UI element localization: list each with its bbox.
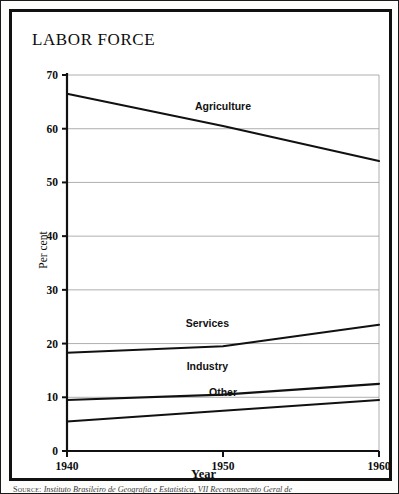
series-label-agriculture: Agriculture: [195, 100, 251, 112]
y-tick-label: 70: [47, 69, 59, 81]
y-tick-label: 10: [47, 391, 59, 403]
series-line-other: [67, 400, 379, 421]
y-tick-label: 50: [47, 176, 59, 188]
source-kicker: Source:: [13, 485, 42, 494]
x-axis-label: Year: [12, 467, 395, 482]
series-label-other: Other: [209, 386, 237, 398]
series-label-services: Services: [186, 317, 229, 329]
y-tick-label: 60: [47, 123, 59, 135]
figure-plate: LABOR FORCE 010203040506070194019501960A…: [0, 0, 399, 494]
source-body: Instituto Brasileiro de Geografia e Esta…: [44, 485, 292, 494]
y-tick-label: 0: [52, 445, 58, 457]
plot-area: 010203040506070194019501960AgricultureSe…: [12, 12, 395, 484]
y-tick-label: 20: [47, 338, 59, 350]
series-label-industry: Industry: [187, 360, 229, 372]
line-chart-svg: 010203040506070194019501960AgricultureSe…: [12, 12, 395, 484]
chart-frame: LABOR FORCE 010203040506070194019501960A…: [9, 9, 392, 481]
source-note: Source: Instituto Brasileiro de Geografi…: [13, 485, 398, 494]
y-axis-label: Per cent: [37, 205, 49, 295]
